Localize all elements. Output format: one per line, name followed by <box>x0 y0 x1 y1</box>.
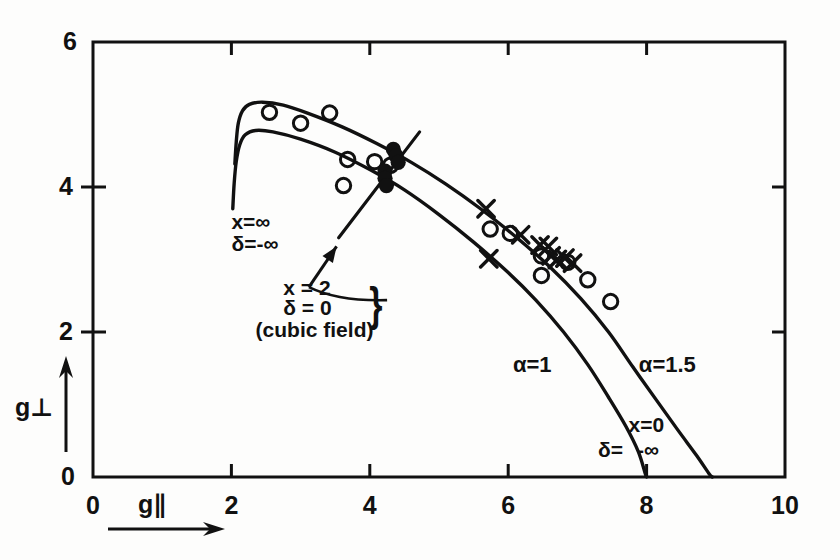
annotation-cubic-field: (cubic field) <box>256 319 374 340</box>
y-axis-label: g⊥ <box>15 395 53 421</box>
y-tick-label-2: 2 <box>59 319 73 345</box>
y-tick-label-6: 6 <box>63 29 77 55</box>
figure-container: 0 2 4 6 0 2 4 6 8 10 g⊥ g∥ α=1 α=1.5 x=∞… <box>0 0 840 560</box>
annotation-cubic-delta: δ = 0 <box>283 297 331 318</box>
x-tick-label-8: 8 <box>640 493 654 519</box>
annotation-cubic-x: x = 2 <box>283 277 330 298</box>
x-tick-label-6: 6 <box>501 493 515 519</box>
x-tick-label-0: 0 <box>86 493 100 519</box>
x-tick-label-2: 2 <box>224 493 238 519</box>
annotation-delta-minus-inf: δ=-∞ <box>231 233 278 254</box>
plot-frame <box>93 42 785 477</box>
curve-label-alpha-1-5: α=1.5 <box>639 354 696 376</box>
annotation-x-infinity: x=∞ <box>231 211 270 232</box>
plot-svg <box>0 0 840 560</box>
axis-ticks <box>81 42 785 477</box>
annotation-delta-eq: δ= <box>598 439 623 460</box>
x-axis-label: g∥ <box>138 492 166 518</box>
x-tick-label-4: 4 <box>363 493 377 519</box>
y-tick-label-0: 0 <box>61 464 75 490</box>
annotation-brace: } <box>369 281 382 328</box>
y-tick-label-4: 4 <box>59 174 73 200</box>
x-tick-label-10: 10 <box>771 493 799 519</box>
annotation-x-zero: x=0 <box>629 414 665 435</box>
curve-label-alpha-1: α=1 <box>513 354 552 376</box>
annotation-minus-infinity: -∞ <box>637 439 659 460</box>
